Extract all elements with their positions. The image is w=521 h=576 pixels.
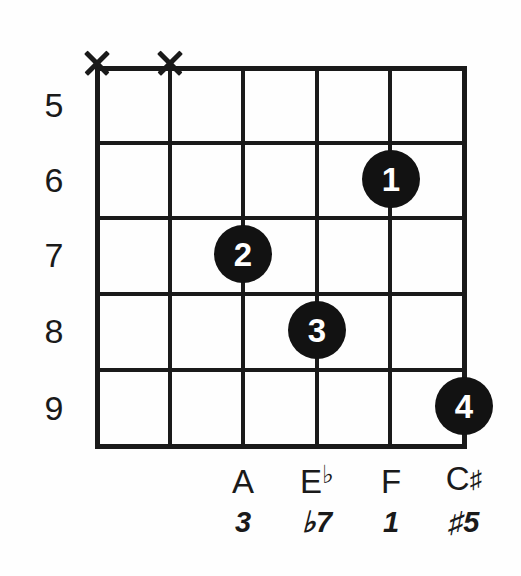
string-line-1 [95,66,100,449]
finger-dot-4: 4 [435,377,493,435]
mute-x-icon-string-1 [82,48,112,78]
finger-dot-4-label: 4 [455,390,473,423]
fret-number-7: 7 [30,238,78,272]
fret-number-6: 6 [30,163,78,197]
interval-label-string-6: ♯5 [419,508,509,537]
finger-dot-1: 1 [362,150,420,208]
string-line-2 [168,66,172,449]
fret-number-8: 8 [30,314,78,348]
fret-number-5: 5 [30,88,78,122]
fret-line-top [95,66,467,71]
finger-dot-3-label: 3 [308,314,326,347]
fret-line-1 [95,141,467,145]
note-label-string-3-name: A [232,463,254,500]
fret-number-9: 9 [30,391,78,425]
fret-line-bottom [95,444,467,449]
note-label-string-6: C♯ [419,462,509,495]
string-line-5 [388,66,392,449]
mute-x-icon-string-2 [155,48,185,78]
note-label-string-6-accidental: ♯ [470,465,483,493]
chord-diagram: 5 6 7 8 9 1 2 3 4 A E♭ F C♯ 3 ♭7 1 ♯5 [0,0,521,576]
fret-line-4 [95,368,467,372]
finger-dot-2: 2 [214,225,272,283]
note-label-string-5-name: F [381,463,401,500]
finger-dot-3: 3 [288,301,346,359]
fret-line-3 [95,292,467,296]
note-label-string-6-name: C [446,460,470,497]
finger-dot-2-label: 2 [234,238,252,271]
note-label-string-4-name: E [300,463,322,500]
fret-line-2 [95,216,467,220]
note-label-string-4-accidental: ♭ [322,460,334,488]
finger-dot-1-label: 1 [382,163,400,196]
string-line-4 [315,66,319,449]
